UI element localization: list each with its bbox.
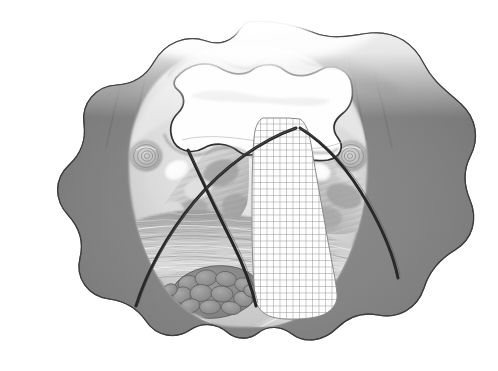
anatomical-cross-section-figure [0, 0, 498, 371]
body-interior [0, 0, 498, 371]
paper-grain-overlay [0, 0, 498, 371]
superior-pole-mask [150, 0, 350, 34]
illustration-canvas [0, 0, 498, 371]
